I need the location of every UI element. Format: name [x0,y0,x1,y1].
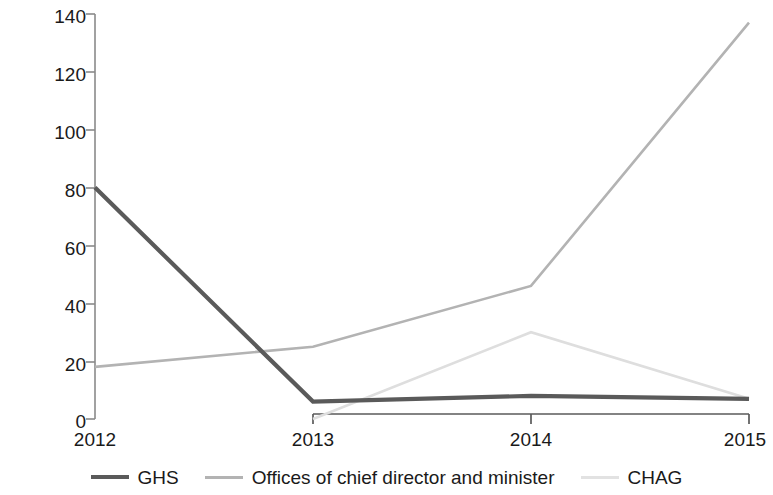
legend-item-ghs: GHS [91,468,179,487]
y-axis [86,14,95,419]
legend-item-chag: CHAG [581,468,683,487]
series-line-chag [313,332,749,419]
plot-area [0,0,773,495]
series-line-offices [95,23,749,367]
legend-swatch-offices [205,476,243,479]
legend-item-offices: Offices of chief director and minister [205,468,555,487]
line-chart: Millions 140 120 100 80 60 40 20 0 2012 … [0,0,773,495]
x-axis [313,414,749,424]
chart-legend: GHS Offices of chief director and minist… [0,462,773,492]
legend-label-chag: CHAG [628,468,683,487]
legend-swatch-ghs [91,475,129,479]
legend-swatch-chag [581,476,619,479]
legend-label-offices: Offices of chief director and minister [252,468,555,487]
legend-label-ghs: GHS [138,468,179,487]
